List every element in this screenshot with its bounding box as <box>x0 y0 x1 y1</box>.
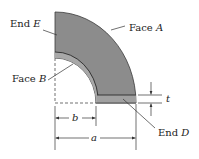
diagram-canvas: b a t End E Face A Face B End D <box>0 0 199 159</box>
end-d-surface <box>97 95 136 103</box>
label-end-d: End D <box>158 127 189 138</box>
label-face-b: Face B <box>12 73 46 84</box>
label-face-a: Face A <box>129 22 163 33</box>
label-end-e: End E <box>10 18 41 29</box>
leader-face-b <box>48 64 73 80</box>
dimension-b-label: b <box>72 112 78 123</box>
dimension-t-label: t <box>166 93 171 104</box>
leader-face-a <box>111 26 125 30</box>
dimension-a-label: a <box>91 132 97 143</box>
